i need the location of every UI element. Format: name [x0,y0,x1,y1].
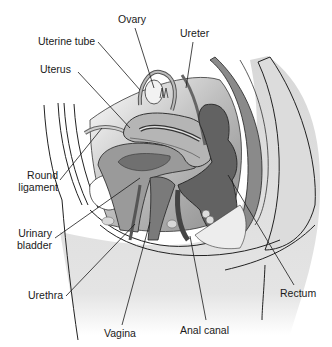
label-anal-canal: Anal canal [180,325,229,337]
label-urinary-bladder-line1: Urinary [10,228,52,240]
sphincter-muscle-2 [206,216,214,224]
label-urinary-bladder: Urinary bladder [10,228,52,251]
label-uterus: Uterus [40,64,71,76]
label-urinary-bladder-line2: bladder [10,240,52,252]
label-round-ligament-line2: ligament [12,182,58,194]
pubic-bone-section [102,217,114,225]
label-vagina: Vagina [104,328,136,340]
label-urethra: Urethra [28,290,63,302]
perineal-body [167,220,177,228]
label-ureter: Ureter [180,28,209,40]
label-round-ligament: Round ligament [12,170,58,193]
leader-uterine-tube [98,42,140,90]
label-rectum: Rectum [280,288,316,300]
anatomy-diagram: Ovary Uterine tube Ureter Uterus Round l… [0,0,332,347]
ovary [145,80,163,104]
label-round-ligament-line1: Round [12,170,58,182]
abdominal-wall-2 [58,103,82,205]
label-ovary: Ovary [118,14,146,26]
label-uterine-tube: Uterine tube [38,36,95,48]
